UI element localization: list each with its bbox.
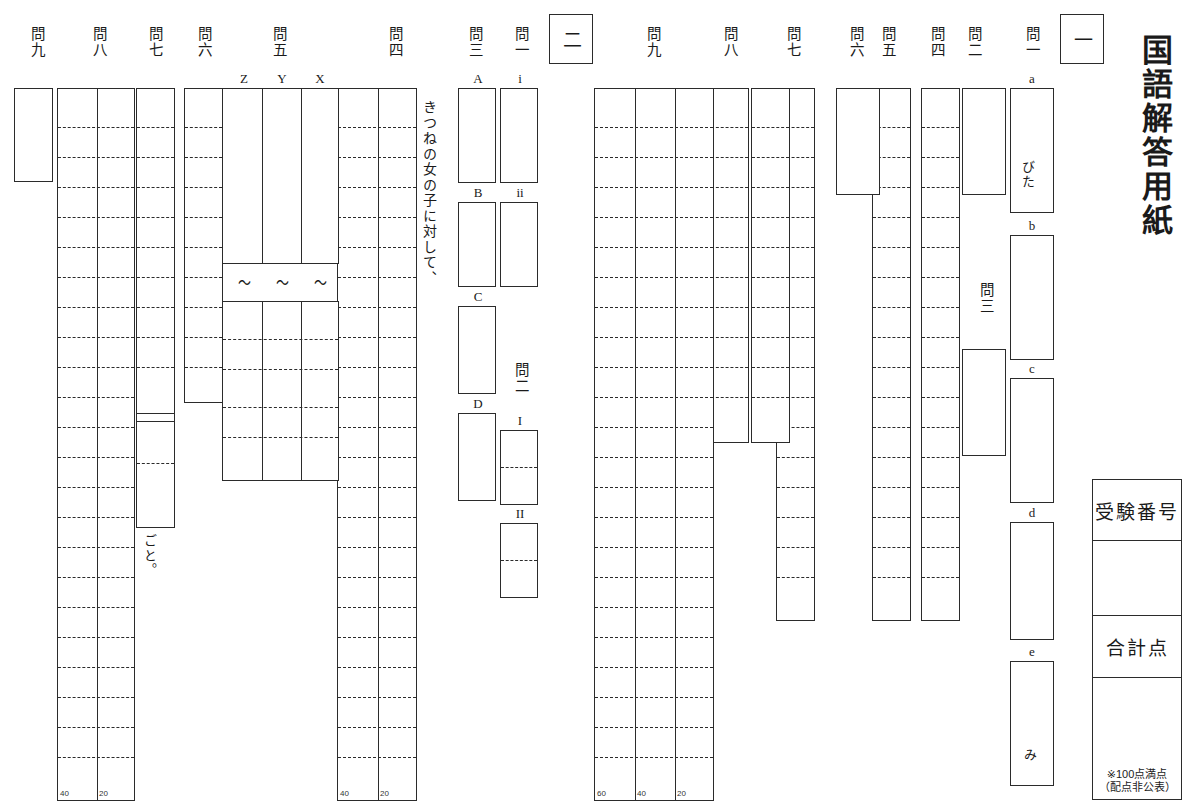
rule — [223, 339, 338, 340]
rule — [185, 217, 222, 218]
field-s1-q8-col1[interactable] — [751, 88, 790, 443]
rule — [58, 337, 134, 338]
field-s1-q3[interactable] — [962, 349, 1006, 456]
exam-number-field[interactable] — [1093, 540, 1181, 615]
label-s2-q2-I: I — [498, 414, 542, 427]
field-s1-q1-c[interactable] — [1010, 378, 1054, 503]
rule — [873, 487, 910, 488]
rule — [922, 307, 959, 308]
field-s1-q2[interactable] — [962, 88, 1006, 195]
count-s2-q8-20: 20 — [99, 790, 108, 798]
score-note-line1: ※100点満点 — [1107, 768, 1168, 782]
rule — [595, 517, 713, 518]
field-s2-q6[interactable] — [184, 88, 223, 403]
label-s2-q5-X: X — [300, 72, 340, 85]
rule — [595, 217, 713, 218]
label-s1-q2: 問二 — [965, 26, 981, 58]
rule — [338, 337, 416, 338]
field-s2-q2-I[interactable] — [500, 430, 538, 505]
rule — [922, 517, 959, 518]
rule — [752, 337, 789, 338]
label-s2-q1: 問一 — [512, 26, 528, 58]
rule — [711, 247, 748, 248]
label-s1-q5: 問五 — [879, 26, 895, 58]
rule — [338, 127, 416, 128]
field-s1-q1-b[interactable] — [1010, 235, 1054, 360]
rule — [58, 127, 134, 128]
rule — [752, 247, 789, 248]
rule — [58, 247, 134, 248]
prompt-s2-q4: きつねの女の子に対して、 — [421, 100, 436, 286]
rule — [338, 427, 416, 428]
rule — [338, 607, 416, 608]
field-s2-q1-ii[interactable] — [500, 202, 538, 287]
field-s1-q1-d[interactable] — [1010, 522, 1054, 640]
rule — [752, 187, 789, 188]
field-s1-q8-col2[interactable] — [710, 88, 749, 443]
rule — [185, 367, 222, 368]
rule — [711, 367, 748, 368]
rule — [58, 277, 134, 278]
field-s2-q3-B[interactable] — [458, 202, 496, 287]
score-note-line2: （配点非公表） — [1099, 781, 1176, 795]
label-s1-q1-b: b — [1008, 219, 1056, 232]
rule — [137, 187, 174, 188]
rule — [338, 727, 416, 728]
label-s2-q1-ii: ii — [498, 186, 542, 199]
tilde-mark-z: 〜 — [224, 274, 264, 292]
rule — [58, 727, 134, 728]
field-s2-q2-II[interactable] — [500, 523, 538, 598]
rule — [338, 487, 416, 488]
rule — [873, 367, 910, 368]
rule — [58, 217, 134, 218]
rule — [873, 517, 910, 518]
field-s1-q1-a[interactable] — [1010, 88, 1054, 213]
rule — [873, 217, 910, 218]
rule — [922, 457, 959, 458]
rule — [922, 397, 959, 398]
section-marker-one-text: 一 — [1073, 30, 1092, 49]
column-divider — [378, 89, 379, 800]
label-s1-q9: 問九 — [644, 26, 660, 58]
rule — [595, 547, 713, 548]
rule — [777, 577, 814, 578]
label-s2-q3-B: B — [456, 186, 500, 199]
field-s2-q3-C[interactable] — [458, 306, 496, 394]
count-s1-q9-20: 20 — [677, 790, 686, 798]
total-score-field[interactable]: ※100点満点 （配点非公表） — [1093, 677, 1181, 801]
rule — [777, 457, 814, 458]
rule — [58, 577, 134, 578]
field-s2-q9[interactable] — [14, 88, 53, 182]
rule — [338, 187, 416, 188]
label-s1-q1: 問一 — [1023, 26, 1039, 58]
rule — [777, 487, 814, 488]
rule — [595, 457, 713, 458]
label-s1-q4: 問四 — [928, 26, 944, 58]
rule — [595, 667, 713, 668]
field-s1-q9[interactable] — [594, 88, 714, 801]
rule — [595, 757, 713, 758]
field-s2-q5-upper[interactable] — [222, 88, 339, 264]
field-s2-q4[interactable] — [337, 88, 417, 801]
label-s2-q3-D: D — [456, 397, 500, 410]
field-s2-q1-i[interactable] — [500, 88, 538, 183]
rule — [137, 367, 174, 368]
rule — [58, 487, 134, 488]
field-s2-q5-lower[interactable] — [222, 301, 339, 481]
tilde-mark-x: 〜 — [300, 274, 340, 292]
label-s2-q4: 問四 — [386, 26, 402, 58]
field-s1-q4[interactable] — [921, 88, 960, 621]
field-s2-q3-D[interactable] — [458, 413, 496, 501]
rule — [752, 157, 789, 158]
rule — [922, 157, 959, 158]
tail-s2-q7: ごと。 — [142, 534, 156, 578]
field-s2-q3-A[interactable] — [458, 88, 496, 183]
rule — [137, 247, 174, 248]
field-s2-q8[interactable] — [57, 88, 135, 801]
field-s2-q7[interactable] — [136, 88, 175, 528]
rule — [595, 697, 713, 698]
tail-s1-q1-a: びた — [1020, 160, 1034, 189]
field-s1-q6[interactable] — [836, 88, 880, 195]
field-s1-q1-e[interactable] — [1010, 661, 1054, 786]
label-s1-q1-d: d — [1008, 506, 1056, 519]
